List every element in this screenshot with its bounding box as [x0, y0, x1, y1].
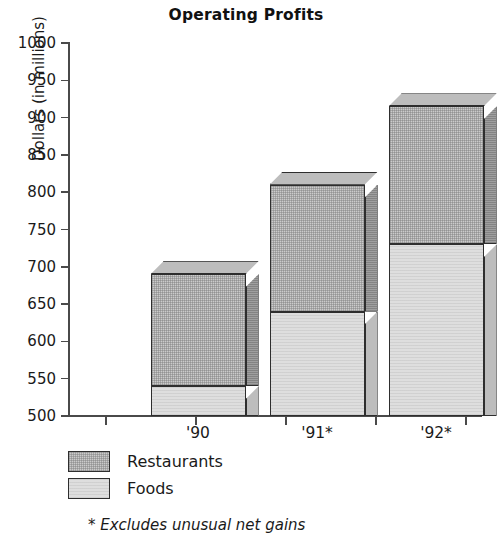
legend-item-foods: Foods [68, 475, 223, 502]
chart-title: Operating Profits [0, 6, 492, 24]
y-axis-tick-label: 550 [0, 372, 56, 387]
y-axis-tick-label: 700 [0, 260, 56, 275]
x-axis-tick-label: '90 [153, 424, 243, 442]
y-axis-tick [61, 341, 68, 343]
legend-label-foods: Foods [127, 481, 174, 497]
bar-side-face-restaurants [246, 274, 259, 386]
y-axis-tick [61, 229, 68, 231]
bar-side-face-restaurants [484, 106, 497, 244]
bar-top-face [270, 172, 378, 185]
bar-side-face-restaurants [365, 185, 378, 312]
bar-side-face-foods [365, 312, 378, 416]
bar-front-face [270, 185, 365, 416]
bar-top-face [389, 93, 497, 106]
y-axis-tick-label: 750 [0, 223, 56, 238]
x-axis-tick-label: '92* [391, 424, 481, 442]
bar-segment-restaurants [389, 106, 484, 244]
x-axis-tick [105, 417, 107, 425]
y-axis-tick-label: 1000 [0, 36, 56, 51]
y-axis-tick-label: 650 [0, 297, 56, 312]
y-axis-tick [61, 415, 68, 417]
bar-group [151, 261, 259, 416]
y-axis-tick-label: 900 [0, 111, 56, 126]
x-axis-tick [375, 417, 377, 425]
y-axis-tick [61, 42, 68, 44]
bar-group [389, 93, 497, 416]
y-axis-tick-label: 600 [0, 334, 56, 349]
y-axis-tick [61, 378, 68, 380]
chart-footnote: * Excludes unusual net gains [88, 516, 305, 534]
plot-area: Dollars (in millions) 100095090085080075… [68, 43, 482, 416]
bar-segment-foods [389, 244, 484, 416]
y-axis-tick-label: 500 [0, 409, 56, 424]
bar-front-face [151, 274, 246, 416]
y-axis-tick-label: 800 [0, 185, 56, 200]
y-axis-tick [61, 117, 68, 119]
bar-side-face-foods [484, 244, 497, 416]
x-axis-tick-label: '91* [272, 424, 362, 442]
bar-segment-restaurants [270, 185, 365, 312]
y-axis-tick [61, 154, 68, 156]
y-axis-tick [61, 191, 68, 193]
bar-front-face [389, 106, 484, 416]
y-axis-tick [61, 80, 68, 82]
y-axis-tick-label: 950 [0, 73, 56, 88]
y-axis-tick [61, 266, 68, 268]
y-axis-tick-label: 850 [0, 148, 56, 163]
chart-legend: Restaurants Foods [68, 448, 223, 502]
legend-item-restaurants: Restaurants [68, 448, 223, 475]
bar-top-face [151, 261, 259, 274]
y-axis-tick [61, 303, 68, 305]
legend-label-restaurants: Restaurants [127, 454, 223, 470]
legend-swatch-foods-icon [68, 478, 110, 499]
bar-side-face-foods [246, 386, 259, 416]
bar-segment-foods [151, 386, 246, 416]
legend-swatch-restaurants-icon [68, 451, 110, 472]
bar-group [270, 172, 378, 416]
bar-segment-restaurants [151, 274, 246, 386]
bar-segment-foods [270, 312, 365, 416]
